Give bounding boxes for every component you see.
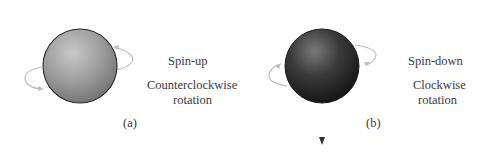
panel-a-figure	[25, 0, 133, 103]
clockwise-label: Clockwise	[413, 78, 466, 93]
caption-b: (b)	[366, 116, 381, 131]
spin-down-label: Spin-down	[408, 54, 463, 69]
caption-a: (a)	[123, 116, 137, 131]
arrow-down-icon	[319, 137, 325, 145]
spin-diagram	[0, 0, 492, 154]
panel-b-figure	[269, 29, 376, 145]
counterclockwise-label: Counterclockwise	[147, 78, 237, 93]
rotation-label-b: rotation	[418, 93, 457, 108]
sphere-a	[43, 29, 117, 103]
rotation-label-a: rotation	[173, 93, 212, 108]
rotation-arrow-front-icon	[25, 67, 43, 89]
spin-up-label: Spin-up	[168, 54, 208, 69]
sphere-b	[285, 29, 359, 103]
